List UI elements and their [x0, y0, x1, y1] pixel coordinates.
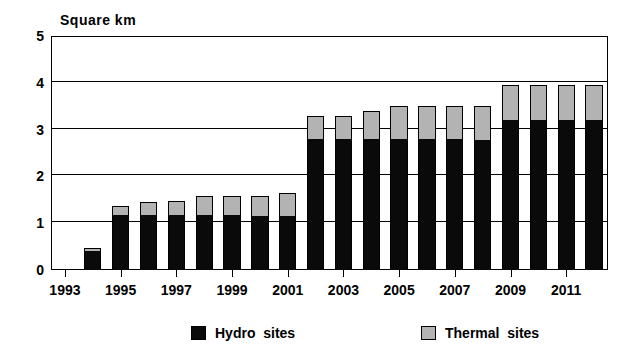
x-tick-label: 2005 — [384, 282, 415, 298]
bar-2007[interactable] — [446, 36, 463, 270]
bar-1998[interactable] — [196, 36, 213, 270]
bar-segment-hydro[interactable] — [363, 139, 380, 270]
x-tick-1993 — [65, 270, 66, 277]
x-tick-2005 — [399, 270, 400, 277]
legend-item-thermal[interactable]: Thermal sites — [421, 325, 539, 341]
bar-2005[interactable] — [390, 36, 407, 270]
bar-segment-hydro[interactable] — [502, 120, 519, 270]
y-tick-label: 2 — [18, 168, 44, 184]
bar-2004[interactable] — [363, 36, 380, 270]
bar-segment-thermal[interactable] — [223, 196, 240, 216]
x-tick-2007 — [455, 270, 456, 277]
bar-segment-thermal[interactable] — [335, 116, 352, 139]
y-axis-title: Square km — [60, 12, 136, 28]
x-tick-label: 1997 — [161, 282, 192, 298]
y-tick-label: 5 — [18, 28, 44, 44]
bar-segment-thermal[interactable] — [279, 193, 296, 216]
bar-segment-thermal[interactable] — [196, 196, 213, 216]
x-tick-1999 — [232, 270, 233, 277]
bar-1994[interactable] — [84, 36, 101, 270]
bar-segment-hydro[interactable] — [446, 139, 463, 270]
bar-2009[interactable] — [502, 36, 519, 270]
bar-1996[interactable] — [140, 36, 157, 270]
bar-segment-thermal[interactable] — [446, 106, 463, 139]
bar-1999[interactable] — [223, 36, 240, 270]
bar-1995[interactable] — [112, 36, 129, 270]
bar-2001[interactable] — [279, 36, 296, 270]
x-tick-2003 — [343, 270, 344, 277]
bar-1997[interactable] — [168, 36, 185, 270]
legend-label: Hydro sites — [215, 325, 295, 341]
y-tick-label: 0 — [18, 262, 44, 278]
x-tick-2009 — [511, 270, 512, 277]
bar-2010[interactable] — [530, 36, 547, 270]
x-tick-label: 2007 — [439, 282, 470, 298]
bar-segment-hydro[interactable] — [585, 120, 602, 270]
bar-2012[interactable] — [585, 36, 602, 270]
bar-segment-hydro[interactable] — [307, 139, 324, 270]
bar-segment-thermal[interactable] — [140, 202, 157, 215]
bar-2008[interactable] — [474, 36, 491, 270]
x-tick-label: 1995 — [105, 282, 136, 298]
y-tick-label: 4 — [18, 75, 44, 91]
bar-2000[interactable] — [251, 36, 268, 270]
bar-segment-thermal[interactable] — [251, 196, 268, 216]
legend-item-hydro[interactable]: Hydro sites — [191, 325, 295, 341]
bar-segment-hydro[interactable] — [418, 139, 435, 270]
bar-segment-thermal[interactable] — [585, 85, 602, 121]
bar-segment-hydro[interactable] — [251, 216, 268, 270]
bar-2003[interactable] — [335, 36, 352, 270]
y-tick-label: 1 — [18, 215, 44, 231]
bar-segment-hydro[interactable] — [530, 120, 547, 270]
x-tick-label: 2011 — [551, 282, 581, 298]
x-tick-label: 2001 — [272, 282, 303, 298]
bar-segment-thermal[interactable] — [112, 206, 129, 215]
bar-segment-thermal[interactable] — [558, 85, 575, 121]
bar-segment-hydro[interactable] — [196, 215, 213, 270]
legend-label: Thermal sites — [445, 325, 539, 341]
x-axis: 1993199519971999200120032005200720092011 — [51, 270, 608, 310]
x-tick-1997 — [176, 270, 177, 277]
x-tick-2011 — [566, 270, 567, 277]
bars-layer — [51, 36, 608, 270]
y-tick-label: 3 — [18, 122, 44, 138]
bar-segment-thermal[interactable] — [307, 116, 324, 139]
x-tick-label: 2003 — [328, 282, 359, 298]
x-tick-label: 1993 — [49, 282, 80, 298]
bar-segment-hydro[interactable] — [279, 216, 296, 270]
bar-segment-hydro[interactable] — [474, 140, 491, 270]
bar-segment-thermal[interactable] — [363, 111, 380, 139]
bar-segment-thermal[interactable] — [502, 85, 519, 120]
x-tick-label: 1999 — [216, 282, 247, 298]
chart-legend: Hydro sitesThermal sites — [51, 325, 608, 347]
bar-segment-hydro[interactable] — [84, 251, 101, 270]
bar-segment-hydro[interactable] — [140, 215, 157, 270]
bar-2011[interactable] — [558, 36, 575, 270]
bar-segment-thermal[interactable] — [168, 201, 185, 215]
x-tick-label: 2009 — [495, 282, 526, 298]
bar-segment-hydro[interactable] — [223, 215, 240, 270]
y-axis-tick-labels: 012345 — [14, 36, 44, 270]
bar-segment-hydro[interactable] — [335, 139, 352, 270]
bar-segment-thermal[interactable] — [474, 106, 491, 140]
bar-segment-hydro[interactable] — [168, 215, 185, 270]
bar-segment-hydro[interactable] — [558, 120, 575, 270]
hydro-swatch-icon — [191, 326, 206, 340]
bar-segment-thermal[interactable] — [530, 85, 547, 121]
bar-2006[interactable] — [418, 36, 435, 270]
bar-1993[interactable] — [56, 36, 73, 270]
x-tick-1995 — [121, 270, 122, 277]
thermal-swatch-icon — [421, 326, 436, 340]
bar-segment-hydro[interactable] — [112, 215, 129, 270]
x-tick-2001 — [288, 270, 289, 277]
bar-segment-thermal[interactable] — [390, 106, 407, 139]
bar-segment-thermal[interactable] — [418, 106, 435, 139]
stacked-bar-chart: Square km 012345 19931995199719992001200… — [0, 0, 627, 352]
bar-segment-hydro[interactable] — [390, 139, 407, 270]
bar-2002[interactable] — [307, 36, 324, 270]
